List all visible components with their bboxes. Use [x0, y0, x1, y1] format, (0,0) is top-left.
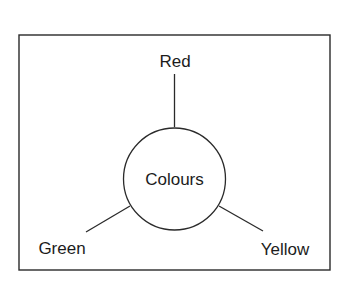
- connector-green: [86, 206, 130, 232]
- central-node-label: Colours: [145, 170, 204, 189]
- branch-label-yellow: Yellow: [261, 240, 310, 259]
- connector-yellow: [219, 206, 263, 231]
- diagram-canvas: Colours Red Green Yellow: [0, 0, 351, 286]
- branch-label-green: Green: [38, 239, 85, 258]
- branch-label-red: Red: [159, 52, 190, 71]
